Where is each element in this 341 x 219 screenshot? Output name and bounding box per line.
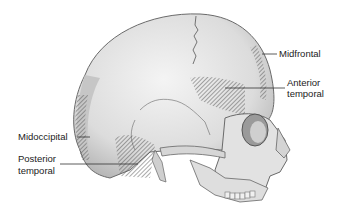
label-posterior-temporal-line2: temporal xyxy=(18,165,55,176)
label-midoccipital: Midoccipital xyxy=(18,131,68,142)
posterior-temporal-region xyxy=(115,135,155,178)
label-anterior-temporal-line2: temporal xyxy=(287,88,324,99)
label-posterior-temporal-line1: Posterior xyxy=(18,153,56,164)
label-midfrontal: Midfrontal xyxy=(279,48,321,59)
skull-diagram: Midfrontal Anterior temporal Midoccipita… xyxy=(0,0,341,219)
skull-illustration xyxy=(0,0,341,219)
label-anterior-temporal-line1: Anterior xyxy=(287,77,320,88)
